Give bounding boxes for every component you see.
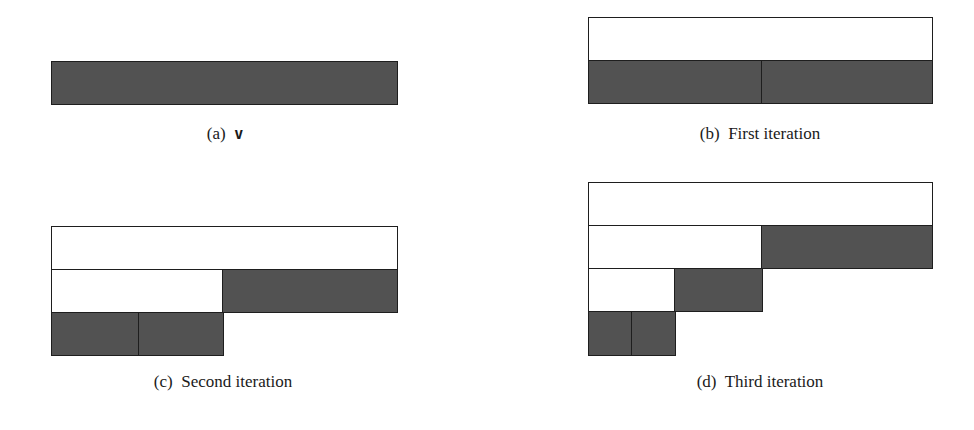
row-3-quarter-1-filled [51,312,140,356]
caption-d: (d) Third iteration [697,372,824,392]
caption-c-label: (c) [154,372,173,391]
caption-b: (b) First iteration [700,124,820,144]
caption-d-label: (d) [697,372,717,391]
caption-a: (a) v [207,124,243,144]
row-1-full-empty [51,226,398,270]
panel-c [51,226,398,356]
row-2-right-half-filled [761,60,933,104]
row-3-quarter-2-filled [674,268,763,312]
panel-d [588,182,933,356]
row-4-eighth-1-filled [588,311,633,356]
row-2-left-half-empty [51,269,224,313]
panel-b [588,17,933,104]
caption-a-text: v [234,125,243,143]
vector-v-block [51,61,398,105]
row-2-left-half-filled [588,60,763,104]
row-3-quarter-2-filled [138,312,224,356]
caption-a-label: (a) [207,124,226,143]
panel-a [51,61,398,105]
row-2-right-half-filled [222,269,398,313]
row-4-eighth-2-filled [631,311,676,356]
row-1-full-empty [588,182,933,226]
row-2-left-half-empty [588,225,763,269]
caption-c-text: Second iteration [181,372,292,391]
caption-d-text: Third iteration [725,372,824,391]
row-3-quarter-1-empty [588,268,676,312]
row-2-right-half-filled [761,225,933,269]
caption-c: (c) Second iteration [154,372,292,392]
caption-b-text: First iteration [728,124,820,143]
caption-b-label: (b) [700,124,720,143]
row-1-full-empty [588,17,933,61]
